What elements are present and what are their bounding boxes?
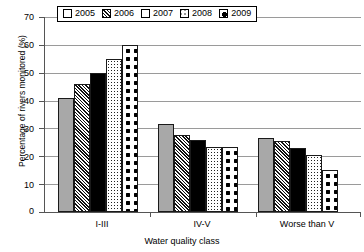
bar-2006-worse-than-V [274,141,290,212]
legend-item-2009: 2009 [219,8,251,19]
y-tick-label-60: 60 [0,41,34,50]
legend-label-2005: 2005 [75,8,95,19]
x-tick-label-IV-V: IV-V [158,219,246,230]
bars-layer [44,17,360,212]
bar-2006-I-III [74,84,90,212]
legend-label-2008: 2008 [192,8,212,19]
legend-swatch-2007-icon [141,9,150,18]
x-tick-label-I-III: I-III [58,219,146,230]
bar-2006-IV-V [174,135,190,212]
bar-2007-I-III [90,73,106,212]
legend-item-2008: 2008 [180,8,212,19]
bar-2005-I-III [58,98,74,212]
bar-2005-worse-than-V [258,138,274,212]
legend-label-2006: 2006 [114,8,134,19]
y-tick-label-40: 40 [0,97,34,106]
y-tick-label-70: 70 [0,13,34,22]
bar-2008-I-III [106,59,122,212]
bar-group-IV-V [158,17,246,212]
legend-item-2006: 2006 [102,8,134,19]
bar-2008-IV-V [206,147,222,213]
y-tick-label-50: 50 [0,69,34,78]
y-tick-label-30: 30 [0,125,34,134]
x-axis-separator-3 [360,212,361,217]
bar-2005-IV-V [158,124,174,212]
legend-item-2007: 2007 [141,8,173,19]
legend: 2005 2006 2007 2008 2009 [57,6,257,22]
x-axis-separator-2 [256,212,257,217]
legend-item-2005: 2005 [63,8,95,19]
legend-label-2009: 2009 [231,8,251,19]
y-tick-label-20: 20 [0,153,34,162]
y-tick-label-0: 0 [0,207,34,216]
bar-2008-worse-than-V [306,155,322,212]
y-tick-label-10: 10 [0,181,34,190]
bar-2007-worse-than-V [290,148,306,212]
x-tick-label-worse-than-V: Worse than V [258,219,356,230]
bar-group-worse-than-V [258,17,346,212]
bar-chart: Percentage of rivers monitored (%) 70 60… [0,0,364,252]
bar-2007-IV-V [190,140,206,212]
bar-2009-worse-than-V [322,170,338,212]
x-axis-separator-1 [150,212,151,217]
bar-2009-IV-V [222,147,238,213]
legend-label-2007: 2007 [153,8,173,19]
legend-swatch-2009-icon [219,9,228,18]
legend-swatch-2005-icon [63,9,72,18]
legend-swatch-2006-icon [102,9,111,18]
bar-group-I-III [58,17,146,212]
x-axis-title: Water quality class [0,236,364,246]
legend-swatch-2008-icon [180,9,189,18]
bar-2009-I-III [122,45,138,212]
